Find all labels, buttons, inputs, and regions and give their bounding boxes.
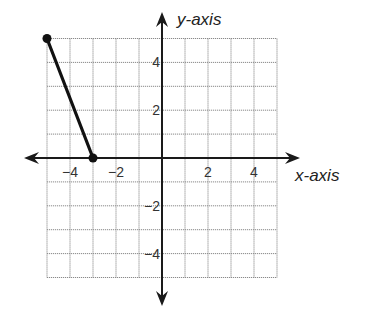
x-tick-label: −2 [108, 164, 124, 180]
segment-line [47, 39, 93, 159]
y-tick-label: 2 [152, 102, 160, 118]
x-tick-label: −4 [62, 164, 78, 180]
y-tick-label: −2 [144, 198, 160, 214]
x-tick-label: 2 [204, 164, 212, 180]
x-axis-label: x-axis [294, 166, 340, 185]
y-tick-label: −4 [144, 246, 160, 262]
endpoint-dot [89, 154, 98, 163]
coordinate-plane: −4−22442−2−4 x-axis y-axis [0, 0, 370, 321]
endpoint-dot [43, 34, 52, 43]
y-tick-label: 4 [152, 54, 160, 70]
y-axis-label: y-axis [176, 10, 222, 29]
axes [24, 12, 300, 306]
x-tick-label: 4 [250, 164, 258, 180]
